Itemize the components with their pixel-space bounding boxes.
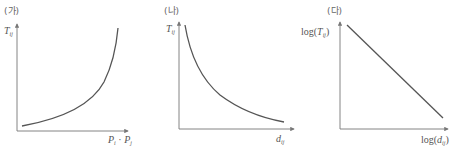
panel-na: (나) Tij dij <box>164 6 294 145</box>
y-axis-label: log(Tij) <box>301 26 329 38</box>
panel-label-da: (다) <box>327 6 342 16</box>
curve-increasing <box>22 28 118 126</box>
curve-decreasing <box>185 25 284 122</box>
figure-canvas: (가) Tij Pi · Pj (나) Tij dij (다) log(Tij)… <box>0 0 453 149</box>
panel-label-na: (나) <box>164 6 179 16</box>
panel-ga: (가) Tij Pi · Pj <box>4 6 132 146</box>
x-axis-label: log(dij) <box>421 134 449 146</box>
y-axis-label: Tij <box>166 23 175 35</box>
x-axis-label: dij <box>276 133 285 145</box>
line-negative-slope <box>347 25 443 118</box>
panel-label-ga: (가) <box>4 6 19 16</box>
panel-da: (다) log(Tij) log(dij) <box>301 6 449 146</box>
x-axis-label: Pi · Pj <box>107 134 132 146</box>
y-axis-label: Tij <box>4 25 13 37</box>
